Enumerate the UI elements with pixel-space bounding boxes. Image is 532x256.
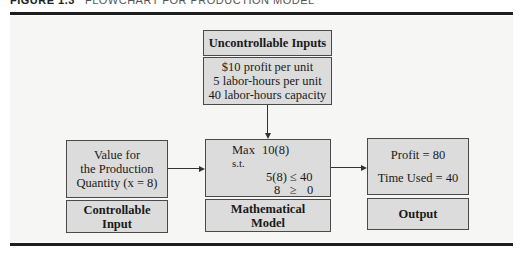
output-label: Output <box>367 198 469 230</box>
uncontrollable-line-2: 5 labor-hours per unit <box>213 74 321 88</box>
controllable-line-2: the Production <box>80 162 153 176</box>
controllable-label-line-1: Controllable <box>83 203 150 217</box>
arrow-down-line <box>267 105 268 133</box>
model-label-line-2: Model <box>251 216 285 230</box>
mathematical-model-label: Mathematical Model <box>205 199 331 232</box>
arrow-right-1-line <box>168 168 199 169</box>
subject-to-row: s.t. <box>206 156 330 169</box>
constraint-2-row: 8 ≥ 0 <box>206 183 330 196</box>
bottom-rule <box>10 243 513 246</box>
model-label-line-1: Mathematical <box>231 202 305 216</box>
constraint-2-lhs: 8 <box>274 183 280 197</box>
controllable-input-box: Value for the Production Quantity (x = 8… <box>66 140 168 198</box>
uncontrollable-inputs-label: Uncontrollable Inputs <box>203 30 332 56</box>
output-box: Profit = 80 Time Used = 40 <box>367 138 469 195</box>
objective-row: Max 10(8) <box>206 143 330 156</box>
constraint-1-row: 5(8) ≤ 40 <box>206 170 330 183</box>
constraint-2-op: ≥ <box>290 183 297 197</box>
controllable-input-label: Controllable Input <box>66 200 168 233</box>
mathematical-model-box: Max 10(8) s.t. 5(8) ≤ 40 8 ≥ 0 <box>205 139 331 197</box>
figure-caption: FIGURE 1.3FLOWCHART FOR PRODUCTION MODEL <box>10 0 315 6</box>
output-label-text: Output <box>399 207 438 221</box>
uncontrollable-line-1: $10 profit per unit <box>222 60 313 74</box>
subject-to: s.t. <box>232 156 245 170</box>
controllable-line-3: Quantity (x = 8) <box>77 176 158 190</box>
controllable-line-1: Value for <box>94 148 140 162</box>
constraint-2-rhs: 0 <box>307 183 313 197</box>
output-time-used: Time Used = 40 <box>378 171 459 185</box>
objective-keyword: Max <box>232 143 255 157</box>
figure-caption-title: FLOWCHART FOR PRODUCTION MODEL <box>85 0 315 6</box>
top-rule <box>10 12 513 15</box>
objective-expression: 10(8) <box>262 143 289 157</box>
controllable-label-line-2: Input <box>102 217 132 231</box>
figure-caption-label: FIGURE 1.3 <box>10 0 75 6</box>
output-profit: Profit = 80 <box>391 148 445 162</box>
uncontrollable-line-3: 40 labor-hours capacity <box>209 88 327 102</box>
arrow-right-2-line <box>331 167 361 168</box>
constraint-1: 5(8) ≤ 40 <box>266 170 312 184</box>
uncontrollable-inputs-box: $10 profit per unit 5 labor-hours per un… <box>203 57 332 105</box>
uncontrollable-inputs-label-text: Uncontrollable Inputs <box>209 36 327 50</box>
